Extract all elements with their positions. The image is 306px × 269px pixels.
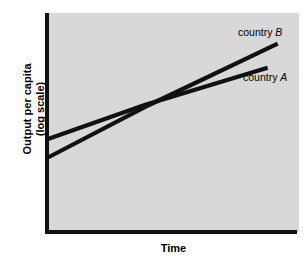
y-axis-title-line2: (log scale) [34,29,47,189]
x-axis-line [45,230,297,234]
x-axis-title: Time [48,242,299,254]
series-label-country-b-prefix: country [238,26,272,38]
y-axis-title-line1: Output per capita [21,29,34,189]
plot-area-background [48,13,299,232]
chart-figure: country B country A Output per capita (l… [0,0,306,269]
series-label-country-b: country B [238,26,282,38]
series-label-country-a-prefix: country [243,71,277,83]
series-label-country-b-symbol: B [275,26,282,38]
series-label-country-a: country A [243,71,287,83]
y-axis-title: Output per capita (log scale) [21,29,47,189]
series-label-country-a-symbol: A [280,71,287,83]
